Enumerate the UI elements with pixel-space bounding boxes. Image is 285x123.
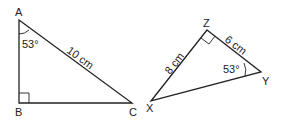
angle-arc-y (244, 63, 246, 76)
right-angle-marker-b (19, 93, 29, 103)
side-label-zy: 6 cm (223, 33, 249, 57)
vertex-label-x: X (146, 102, 154, 114)
vertex-label-b: B (15, 106, 22, 118)
triangle-abc: A B C 53° 10 cm (15, 6, 137, 118)
angle-label-y: 53° (223, 63, 240, 75)
triangles-diagram: A B C 53° 10 cm Z Y X 53° 8 cm 6 cm (0, 0, 285, 123)
vertex-label-y: Y (262, 75, 270, 87)
triangle-xyz: Z Y X 53° 8 cm 6 cm (146, 17, 270, 114)
vertex-label-c: C (129, 106, 137, 118)
right-angle-marker-z (201, 36, 215, 44)
vertex-label-z: Z (203, 17, 210, 29)
side-label-xz: 8 cm (162, 50, 186, 76)
triangle-abc-outline (19, 20, 132, 103)
angle-label-a: 53° (22, 38, 39, 50)
angle-arc-a (19, 30, 29, 34)
vertex-label-a: A (15, 6, 23, 18)
